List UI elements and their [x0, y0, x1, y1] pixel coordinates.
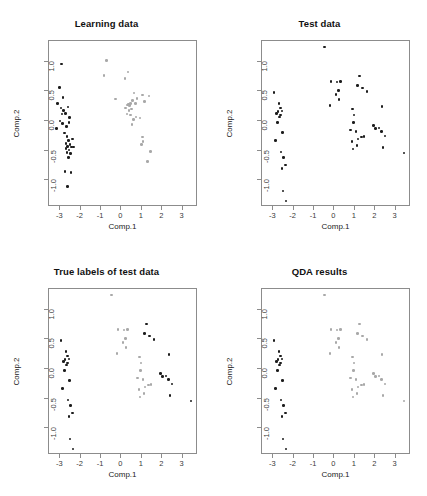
- data-point: [145, 323, 148, 326]
- x-tick-label: 0: [118, 459, 122, 468]
- data-point: [323, 294, 326, 297]
- x-tick-label: -1: [97, 459, 104, 468]
- data-point: [72, 448, 75, 451]
- y-tick: [257, 150, 261, 151]
- data-point: [64, 358, 67, 361]
- chart-panel-0: Learning data-3-2-101231.00.50.0-0.5-1.0…: [0, 0, 213, 248]
- data-point: [128, 109, 131, 112]
- plot-area: [48, 40, 197, 206]
- data-point: [352, 148, 355, 151]
- data-point: [139, 396, 142, 399]
- data-point: [71, 138, 74, 141]
- data-point: [278, 350, 281, 353]
- figure-grid: Learning data-3-2-101231.00.50.0-0.5-1.0…: [0, 0, 427, 496]
- data-point: [114, 98, 117, 101]
- data-point: [61, 122, 64, 125]
- data-point: [282, 404, 285, 407]
- data-point: [138, 356, 141, 359]
- y-axis-label-text: Comp.2: [225, 109, 234, 137]
- x-tick: [141, 454, 142, 458]
- y-axis-label-text: Comp.2: [12, 109, 21, 137]
- x-axis-label: Comp.1: [261, 222, 410, 231]
- x-tick: [374, 206, 375, 210]
- data-point: [68, 116, 71, 119]
- x-tick-label: 2: [372, 211, 376, 220]
- y-tick: [257, 398, 261, 399]
- data-point: [171, 383, 174, 386]
- data-point: [60, 339, 63, 342]
- x-tick: [100, 454, 101, 458]
- data-point: [124, 107, 127, 110]
- data-point: [330, 80, 333, 83]
- y-tick-label: 0.5: [47, 338, 56, 348]
- data-point: [66, 151, 69, 154]
- data-point: [349, 377, 352, 380]
- data-point: [361, 87, 364, 90]
- y-axis-label: Comp.2: [10, 40, 22, 206]
- data-point: [284, 164, 287, 167]
- x-axis: -3-2-10123: [48, 454, 197, 455]
- data-point: [363, 135, 366, 138]
- data-point: [279, 107, 282, 110]
- data-point: [130, 108, 133, 111]
- data-point: [117, 328, 120, 331]
- data-point: [68, 358, 71, 361]
- data-point: [358, 75, 361, 78]
- y-tick-label: -1.0: [49, 179, 58, 192]
- data-point: [139, 117, 142, 120]
- x-tick: [272, 454, 273, 458]
- y-axis: 1.00.50.0-0.5-1.0: [48, 288, 49, 454]
- data-point: [136, 377, 139, 380]
- data-point: [355, 130, 358, 133]
- x-tick-label: 1: [139, 459, 143, 468]
- data-point: [133, 92, 136, 95]
- data-point: [123, 329, 126, 332]
- x-tick-label: -3: [269, 211, 276, 220]
- data-point: [366, 338, 369, 341]
- x-tick: [182, 454, 183, 458]
- x-axis-label: Comp.1: [48, 222, 197, 231]
- y-tick-label: -1.0: [262, 427, 271, 440]
- data-point: [274, 387, 277, 390]
- data-point: [135, 116, 138, 119]
- data-point: [380, 130, 383, 133]
- data-point: [339, 80, 342, 83]
- y-tick-label: 0.5: [260, 338, 269, 348]
- data-point: [355, 378, 358, 381]
- y-axis-label-text: Comp.2: [225, 357, 234, 385]
- y-tick-label: 0.0: [260, 120, 269, 130]
- x-tick-label: 2: [372, 459, 376, 468]
- x-tick-label: 0: [331, 211, 335, 220]
- data-point: [358, 323, 361, 326]
- data-point: [129, 114, 132, 117]
- data-point: [281, 131, 284, 134]
- data-point: [351, 388, 354, 391]
- data-point: [384, 383, 387, 386]
- data-point: [141, 136, 144, 139]
- data-point: [276, 121, 279, 124]
- x-tick-label: -1: [310, 459, 317, 468]
- x-tick-label: 0: [118, 211, 122, 220]
- data-point: [69, 404, 72, 407]
- data-point: [110, 294, 113, 297]
- y-tick-label: 1.0: [260, 61, 269, 71]
- data-point: [353, 114, 356, 117]
- data-point: [148, 335, 151, 338]
- y-axis: 1.00.50.0-0.5-1.0: [261, 40, 262, 206]
- x-tick-label: 3: [180, 459, 184, 468]
- data-point: [71, 412, 74, 415]
- plot-area: [48, 288, 197, 454]
- data-point: [403, 400, 406, 403]
- data-point: [66, 135, 69, 138]
- data-points-layer: [262, 289, 409, 453]
- data-point: [67, 399, 70, 402]
- x-tick: [293, 206, 294, 210]
- data-point: [356, 392, 359, 395]
- y-tick-label: 1.0: [47, 61, 56, 71]
- y-tick-label: -0.5: [262, 398, 271, 411]
- x-tick-label: -3: [269, 459, 276, 468]
- y-axis-label-text: Comp.2: [12, 357, 21, 385]
- data-point: [381, 105, 384, 108]
- data-point: [69, 152, 72, 155]
- data-point: [278, 116, 281, 119]
